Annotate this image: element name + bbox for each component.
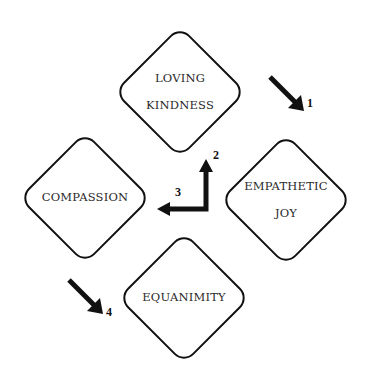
- arrow-label-4: 4: [106, 305, 112, 320]
- arrow-1-icon: [270, 77, 304, 111]
- arrow-label-1: 1: [307, 96, 313, 111]
- arrow-label-2: 2: [213, 148, 219, 163]
- four-immeasurables-diagram: LOVING KINDNESS EMPATHETIC JOY COMPASSIO…: [0, 0, 372, 388]
- arrow-4-icon: [69, 280, 103, 314]
- arrow-2-3-elbow-icon: [157, 159, 213, 216]
- arrow-label-3: 3: [175, 185, 181, 200]
- arrows-layer: [0, 0, 372, 388]
